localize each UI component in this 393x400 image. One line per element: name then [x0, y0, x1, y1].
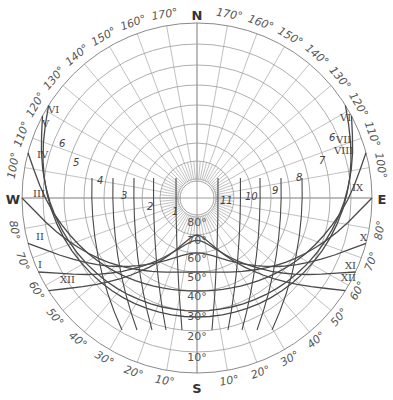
azimuth-label: 40°	[305, 329, 328, 351]
cardinal-west: W	[6, 192, 20, 207]
altitude-label: 70°	[187, 234, 207, 247]
azimuth-label: 130°	[326, 64, 353, 93]
hour-label-morning: 2	[147, 201, 153, 212]
hour-label-afternoon: 6	[329, 132, 335, 143]
altitude-label: 80°	[187, 216, 207, 229]
hour-label-afternoon: 10	[245, 191, 258, 202]
hour-label-morning: 1	[172, 206, 178, 217]
azimuth-spoke	[200, 26, 227, 180]
month-label-west: V	[41, 118, 50, 129]
azimuth-label: 40°	[66, 329, 89, 351]
month-label-east: X	[360, 232, 368, 243]
hour-label-afternoon: 9	[272, 185, 278, 196]
hour-line	[257, 178, 281, 330]
azimuth-label: 100°	[5, 151, 22, 179]
hour-label-morning: 5	[73, 157, 79, 168]
azimuth-label: 80°	[6, 219, 22, 240]
month-label-west: II	[36, 231, 44, 242]
month-label-east: XI	[345, 260, 356, 271]
altitude-label: 40°	[187, 290, 207, 303]
azimuth-spoke-minor	[160, 195, 178, 197]
azimuth-label: 100°	[372, 151, 389, 179]
azimuth-label: 160°	[246, 12, 275, 33]
altitude-label: 60°	[187, 252, 207, 265]
month-label-west: VI	[47, 104, 59, 115]
azimuth-spoke	[216, 168, 370, 195]
azimuth-spoke-minor	[210, 211, 223, 224]
month-label-east: VII	[335, 134, 351, 145]
azimuth-label: 170°	[215, 6, 243, 23]
hour-label-afternoon: 8	[296, 172, 302, 183]
azimuth-label: 20°	[122, 363, 145, 382]
altitude-label: 20°	[187, 330, 207, 343]
cardinal-north: N	[192, 8, 203, 23]
hour-label-afternoon: 11	[220, 195, 233, 206]
azimuth-label: 50°	[328, 306, 350, 329]
altitude-label: 30°	[187, 310, 207, 323]
cardinal-south: S	[192, 381, 201, 396]
month-label-west: III	[33, 188, 45, 199]
cardinal-east: E	[378, 192, 387, 207]
month-label-west: I	[38, 259, 42, 270]
hour-label-afternoon: 7	[319, 155, 326, 166]
azimuth-spoke-minor	[199, 161, 201, 179]
azimuth-label: 80°	[372, 219, 388, 240]
azimuth-label: 140°	[303, 42, 332, 69]
azimuth-label: 170°	[150, 6, 178, 23]
hour-label-morning: 6	[59, 138, 65, 149]
azimuth-label: 70°	[13, 250, 32, 273]
azimuth-spoke	[167, 26, 194, 180]
altitude-label: 50°	[187, 271, 207, 284]
azimuth-label: 110°	[11, 120, 32, 149]
azimuth-label: 150°	[89, 24, 118, 49]
azimuth-label: 160°	[119, 12, 148, 33]
hour-label-morning: 3	[121, 190, 127, 201]
hour-label-morning: 4	[97, 175, 103, 186]
month-label-west: XII	[60, 274, 75, 285]
month-label-east: VI	[339, 112, 351, 123]
azimuth-label: 50°	[44, 306, 66, 329]
month-label-east: XII	[341, 272, 356, 283]
azimuth-spoke-minor	[210, 172, 223, 185]
azimuth-label: 10°	[218, 373, 239, 389]
month-label-east: VIII	[333, 145, 353, 156]
azimuth-label: 140°	[63, 42, 92, 69]
month-label-east: IX	[352, 182, 364, 193]
azimuth-label: 10°	[154, 373, 175, 389]
altitude-label: 10°	[187, 351, 207, 364]
sun-path-diagram: 10°20°30°40°50°60°70°80°170°170°160°160°…	[0, 0, 393, 400]
azimuth-label: 110°	[362, 120, 383, 149]
azimuth-spoke-minor	[194, 161, 196, 179]
azimuth-label: 70°	[362, 250, 381, 273]
azimuth-label: 150°	[276, 24, 305, 49]
azimuth-label: 20°	[249, 363, 272, 382]
azimuth-label: 130°	[41, 64, 68, 93]
azimuth-spoke-minor	[160, 200, 178, 202]
azimuth-label: 120°	[23, 90, 48, 119]
azimuth-spoke-minor	[171, 172, 184, 185]
month-label-west: IV	[37, 149, 49, 160]
